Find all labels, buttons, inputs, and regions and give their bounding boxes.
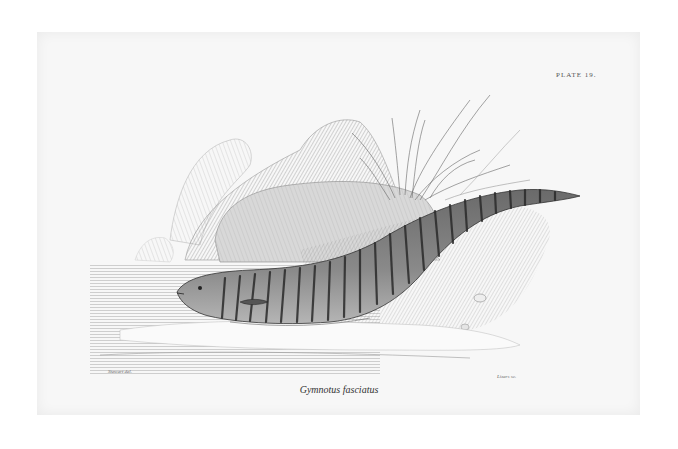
engraver-credit: Lizars sc. (497, 374, 516, 379)
plate-number: PLATE 19. (556, 71, 597, 79)
species-caption: Gymnotus fasciatus (0, 384, 678, 395)
artist-credit: Stewart del. (108, 369, 132, 374)
engraving-illustration (0, 0, 678, 449)
